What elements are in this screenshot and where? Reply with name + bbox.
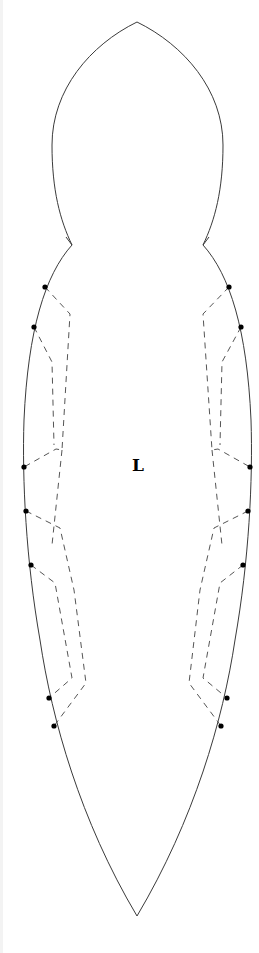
- left-landmark-dot-L3: [21, 464, 26, 469]
- right-landmark-dot-R1: [226, 284, 231, 289]
- left-dash-path-a: [24, 287, 70, 467]
- left-dashed-lines: [24, 287, 86, 726]
- head-outline: [52, 22, 223, 245]
- right-dash-path-b: [220, 327, 241, 445]
- left-dash-path-e: [31, 565, 72, 698]
- left-landmark-dot-L7: [51, 723, 56, 728]
- body-diagram: L: [0, 0, 259, 953]
- right-landmark-dot-R5: [240, 562, 245, 567]
- left-dash-path-d: [26, 511, 86, 726]
- right-landmark-dot-R2: [238, 324, 243, 329]
- left-landmark-dot-L4: [23, 508, 28, 513]
- right-dash-path-c: [212, 450, 222, 545]
- right-dashed-lines: [189, 287, 250, 726]
- right-dash-path-d: [189, 511, 248, 726]
- right-landmark-dots: [218, 284, 252, 728]
- right-landmark-dot-R7: [218, 723, 223, 728]
- left-landmark-dot-L2: [31, 324, 36, 329]
- left-landmark-dot-L5: [28, 562, 33, 567]
- center-label: L: [132, 455, 144, 475]
- body-outline: [24, 245, 252, 916]
- left-dash-path-b: [34, 327, 54, 445]
- left-landmark-dots: [21, 284, 56, 728]
- right-dash-path-a: [203, 287, 250, 467]
- right-dash-path-e: [203, 565, 243, 698]
- right-landmark-dot-R3: [247, 464, 252, 469]
- left-dash-path-c: [52, 450, 62, 545]
- right-landmark-dot-R6: [224, 695, 229, 700]
- left-landmark-dot-L6: [46, 695, 51, 700]
- left-landmark-dot-L1: [42, 284, 47, 289]
- right-landmark-dot-R4: [245, 508, 250, 513]
